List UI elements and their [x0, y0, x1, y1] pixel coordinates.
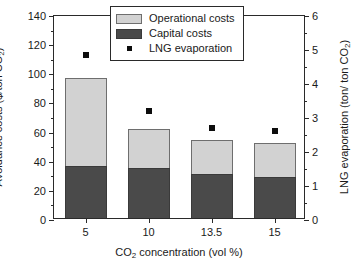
- stacked-bar: [191, 140, 233, 218]
- y-axis-left-tick: [49, 45, 54, 46]
- stacked-bar: [254, 143, 296, 218]
- x-axis-tick: [149, 218, 150, 223]
- x-axis-tick-label: 15: [268, 227, 280, 238]
- lng-evaporation-point: [272, 128, 278, 134]
- legend-item: Capital costs: [116, 26, 235, 41]
- legend-swatch-icon: [116, 29, 142, 39]
- x-axis-tick: [275, 218, 276, 223]
- y-axis-right-tick-label: 6: [312, 11, 318, 22]
- y-axis-left-title-main: Avoidance costs ($/ton CO: [0, 56, 4, 187]
- y-axis-left-tick: [51, 31, 54, 32]
- y-axis-left-tick-label: 60: [34, 127, 46, 138]
- lng-evaporation-point: [209, 125, 215, 131]
- bar-segment-operational-costs: [128, 129, 170, 168]
- legend-item: Operational costs: [116, 11, 235, 26]
- legend-item-label: LNG evaporation: [149, 43, 232, 54]
- y-axis-left-tick-label: 120: [28, 40, 46, 51]
- legend-item-label: Operational costs: [149, 13, 235, 24]
- x-axis-title-sub: 2: [132, 251, 136, 260]
- y-axis-right-tick-label: 3: [312, 113, 318, 124]
- y-axis-right-tick: [304, 67, 307, 68]
- x-axis-tick-label: 5: [82, 227, 88, 238]
- bar-segment-capital-costs: [65, 166, 107, 218]
- y-axis-right-title-sub: 2: [343, 44, 352, 48]
- legend-item: LNG evaporation: [116, 41, 235, 56]
- y-axis-right-tick: [304, 169, 307, 170]
- y-axis-left-tick-label: 100: [28, 69, 46, 80]
- x-axis-tick: [212, 218, 213, 223]
- x-axis-tick: [86, 218, 87, 223]
- y-axis-right-tick-label: 2: [312, 147, 318, 158]
- bar-segment-capital-costs: [128, 168, 170, 218]
- y-axis-left-tick: [49, 16, 54, 17]
- legend-swatch-icon: [116, 14, 142, 24]
- legend-item-label: Capital costs: [149, 28, 212, 39]
- y-axis-left-tick: [49, 74, 54, 75]
- lng-evaporation-point: [146, 108, 152, 114]
- y-axis-left-tick-label: 80: [34, 98, 46, 109]
- y-axis-left-tick: [51, 205, 54, 206]
- y-axis-left-tick-label: 40: [34, 156, 46, 167]
- bar-segment-operational-costs: [65, 78, 107, 165]
- y-axis-left-tick: [51, 60, 54, 61]
- y-axis-left-tick: [49, 191, 54, 192]
- y-axis-right-tick: [304, 16, 309, 17]
- bar-segment-operational-costs: [191, 140, 233, 174]
- y-axis-right-tick: [304, 152, 309, 153]
- y-axis-left-title-sub: 2: [0, 51, 6, 55]
- x-axis-tick-label: 10: [142, 227, 154, 238]
- y-axis-left-tick: [49, 133, 54, 134]
- y-axis-left-tick-label: 20: [34, 185, 46, 196]
- y-axis-right-title-main: LNG evaporation (ton/ ton CO: [338, 48, 350, 194]
- y-axis-right-tick: [304, 203, 307, 204]
- chart-figure: Avoidance costs ($/ton CO2) LNG evaporat…: [0, 0, 352, 266]
- y-axis-left-tick-label: 140: [28, 11, 46, 22]
- y-axis-right-tick: [304, 220, 309, 221]
- x-axis-title-main: CO: [115, 246, 132, 258]
- y-axis-left-tick: [49, 103, 54, 104]
- y-axis-right-tick: [304, 84, 309, 85]
- y-axis-right-tick: [304, 135, 307, 136]
- y-axis-right-tick: [304, 186, 309, 187]
- y-axis-left-tick: [49, 162, 54, 163]
- y-axis-left-tick: [51, 118, 54, 119]
- legend-point-icon: [116, 46, 142, 51]
- y-axis-right-tick: [304, 50, 309, 51]
- y-axis-left-tick: [51, 89, 54, 90]
- y-axis-right-tick: [304, 118, 309, 119]
- stacked-bar: [128, 129, 170, 218]
- y-axis-right-tick: [304, 101, 307, 102]
- y-axis-left-tick: [51, 176, 54, 177]
- y-axis-right-tick-label: 1: [312, 181, 318, 192]
- stacked-bar: [65, 78, 107, 218]
- y-axis-left-tick: [51, 147, 54, 148]
- y-axis-right-title: LNG evaporation (ton/ ton CO2): [338, 40, 350, 194]
- lng-evaporation-point: [83, 52, 89, 58]
- y-axis-left-title: Avoidance costs ($/ton CO2): [0, 48, 4, 187]
- x-axis-title-rest: concentration (vol %): [136, 246, 242, 258]
- y-axis-right-tick-label: 5: [312, 45, 318, 56]
- y-axis-right-tick: [304, 33, 307, 34]
- bar-segment-capital-costs: [191, 174, 233, 218]
- x-axis-title: CO2 concentration (vol %): [115, 246, 242, 258]
- x-axis-tick-label: 13.5: [201, 227, 222, 238]
- bar-segment-operational-costs: [254, 143, 296, 177]
- y-axis-right-tick-label: 4: [312, 79, 318, 90]
- y-axis-left-tick-label: 0: [40, 215, 46, 226]
- bar-segment-capital-costs: [254, 177, 296, 218]
- y-axis-right-tick-label: 0: [312, 215, 318, 226]
- chart-legend: Operational costsCapital costsLNG evapor…: [110, 6, 244, 61]
- square-marker-icon: [127, 46, 132, 51]
- y-axis-left-tick: [49, 220, 54, 221]
